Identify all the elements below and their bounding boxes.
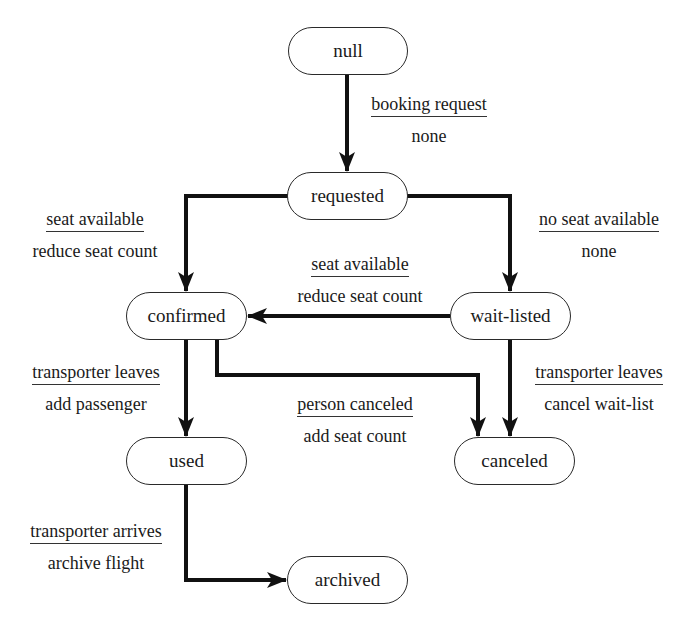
arrow-used-to-archived [186,485,286,580]
state-label: requested [311,185,384,207]
state-label: archived [315,569,380,591]
event-text: transporter leaves [32,363,159,385]
label-booking-request: booking request none [366,95,492,145]
label-transporter-arrives: transporter arrives archive flight [20,522,172,572]
action-text: archive flight [20,554,172,572]
event-text: seat available [311,255,408,277]
state-wait-listed: wait-listed [450,292,571,340]
label-seat-available-middle: seat available reduce seat count [283,255,437,305]
state-label: used [169,450,204,472]
action-text: reduce seat count [18,242,172,260]
action-text: cancel wait-list [522,395,676,413]
state-label: confirmed [147,305,225,327]
state-confirmed: confirmed [126,292,247,340]
event-text: transporter leaves [535,363,662,385]
state-label: wait-listed [470,305,550,327]
state-label: null [333,40,363,62]
action-text: add seat count [280,427,430,445]
event-text: booking request [371,95,486,117]
arrow-requested-to-confirmed [186,196,288,291]
event-text: transporter arrives [30,522,161,544]
event-text: seat available [46,210,143,232]
state-used: used [126,437,247,485]
action-text: reduce seat count [283,287,437,305]
state-requested: requested [287,172,408,220]
label-person-canceled: person canceled add seat count [280,395,430,445]
label-transporter-leaves-left: transporter leaves add passenger [20,363,172,413]
action-text: none [366,127,492,145]
action-text: add passenger [20,395,172,413]
action-text: none [526,242,672,260]
label-seat-available-left: seat available reduce seat count [18,210,172,260]
state-label: canceled [481,450,547,472]
state-null: null [288,27,408,75]
event-text: person canceled [297,395,412,417]
state-archived: archived [287,556,408,604]
state-canceled: canceled [454,437,575,485]
label-transporter-leaves-right: transporter leaves cancel wait-list [522,363,676,413]
event-text: no seat available [539,210,659,232]
label-no-seat-available: no seat available none [526,210,672,260]
